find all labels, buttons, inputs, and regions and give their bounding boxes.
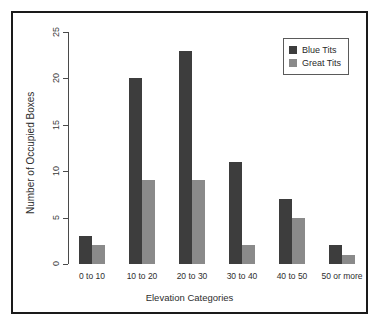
bar-blue-tits-0-to-10 (79, 236, 92, 264)
x-axis-category-label: 30 to 40 (218, 271, 266, 281)
legend-swatch-great-tits (289, 59, 297, 67)
x-axis-category-label: 50 or more (318, 271, 366, 281)
y-axis-tick-label-text: 20 (52, 73, 61, 83)
y-axis-tick (63, 218, 68, 219)
y-axis-tick-label-text: 5 (52, 215, 61, 220)
y-axis-title: Number of Occupied Boxes (22, 53, 38, 253)
bar-blue-tits-10-to-20 (129, 78, 142, 264)
bar-blue-tits-30-to-40 (229, 162, 242, 264)
legend-swatch-blue-tits (289, 46, 297, 54)
x-axis-category-label: 10 to 20 (118, 271, 166, 281)
y-axis-tick (63, 171, 68, 172)
x-axis-category-label: 20 to 30 (168, 271, 216, 281)
bar-blue-tits-50-or-more (329, 245, 342, 264)
bar-great-tits-10-to-20 (142, 180, 155, 264)
legend-item: Great Tits (289, 57, 341, 69)
x-axis-category-label: 0 to 10 (68, 271, 116, 281)
y-axis-tick-label: 5 (47, 211, 61, 225)
bar-great-tits-20-to-30 (192, 180, 205, 264)
y-axis-tick-label-text: 25 (52, 27, 61, 37)
chart-legend: Blue TitsGreat Tits (283, 38, 349, 75)
bar-great-tits-30-to-40 (242, 245, 255, 264)
legend-item: Blue Tits (289, 44, 341, 56)
y-axis-tick (63, 78, 68, 79)
bar-great-tits-0-to-10 (92, 245, 105, 264)
bar-great-tits-40-to-50 (292, 218, 305, 264)
legend-item-label: Blue Tits (302, 46, 337, 55)
plot-area: Number of Occupied Boxes 0510152025 0 to… (13, 13, 366, 312)
y-axis-tick-label: 15 (47, 118, 61, 132)
x-axis-category-label: 40 to 50 (268, 271, 316, 281)
y-axis-tick (63, 32, 68, 33)
bar-blue-tits-40-to-50 (279, 199, 292, 264)
y-axis-tick-label-text: 0 (52, 261, 61, 266)
x-axis-title: Elevation Categories (13, 292, 366, 303)
y-axis-tick-label-text: 15 (52, 120, 61, 130)
y-axis-tick-label: 25 (47, 25, 61, 39)
legend-item-label: Great Tits (302, 59, 341, 68)
y-axis-tick-label-text: 10 (52, 166, 61, 176)
chart-frame: Number of Occupied Boxes 0510152025 0 to… (11, 11, 368, 314)
y-axis-tick-label: 0 (47, 257, 61, 271)
y-axis-tick-label: 20 (47, 71, 61, 85)
bar-great-tits-50-or-more (342, 255, 355, 264)
y-axis-tick (63, 264, 68, 265)
y-axis-tick (63, 125, 68, 126)
y-axis-tick-label: 10 (47, 164, 61, 178)
bar-blue-tits-20-to-30 (179, 51, 192, 264)
